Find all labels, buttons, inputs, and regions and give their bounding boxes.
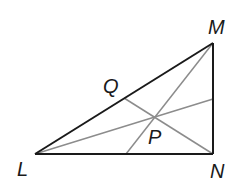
label-m: M (208, 16, 225, 38)
label-l: L (17, 158, 28, 180)
label-p: P (148, 126, 162, 148)
triangle-diagram: M L N Q P (0, 0, 244, 192)
segment-m-cevian (126, 43, 213, 154)
label-n: N (210, 160, 225, 182)
segment-q-n (124, 98, 213, 154)
segment-l-median (35, 99, 213, 154)
label-q: Q (103, 75, 119, 97)
